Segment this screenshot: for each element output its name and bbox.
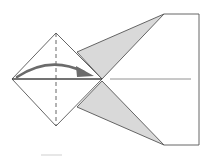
origami-diagram — [0, 0, 209, 157]
tail-outline — [164, 14, 199, 145]
